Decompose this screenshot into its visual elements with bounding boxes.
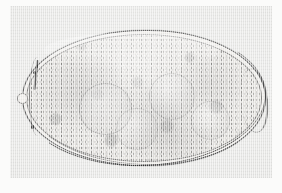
- photomicrograph-figure: [0, 0, 282, 193]
- shell-pigment-spot-2: [31, 125, 34, 128]
- shell-pigment-spot-3: [36, 65, 38, 67]
- operculum-knob: [17, 93, 28, 104]
- trematode-egg: [22, 30, 266, 166]
- microscope-field: [10, 6, 272, 178]
